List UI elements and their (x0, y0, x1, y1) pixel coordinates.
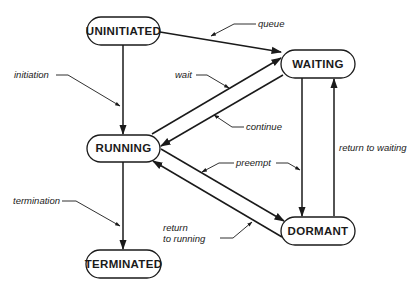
leader-initiation (56, 75, 120, 106)
leader-queue (211, 24, 256, 36)
state-running: RUNNING (87, 135, 160, 162)
label-continue: continue (246, 121, 282, 132)
state-uninitiated-label: UNINITIATED (86, 25, 161, 37)
label-to-running: to running (163, 233, 206, 244)
state-uninitiated: UNINITIATED (86, 17, 161, 45)
leader-termination (62, 201, 120, 226)
state-dormant: DORMANT (281, 217, 355, 245)
leader-continue (214, 115, 244, 127)
state-waiting-label: WAITING (292, 58, 343, 70)
leader-return-to-running (220, 222, 252, 238)
state-waiting: WAITING (281, 50, 355, 78)
state-terminated: TERMINATED (85, 250, 163, 278)
state-diagram: UNINITIATED WAITING RUNNING DORMANT TERM… (0, 0, 419, 291)
state-terminated-label: TERMINATED (85, 258, 163, 270)
state-dormant-label: DORMANT (288, 225, 349, 237)
label-initiation: initiation (14, 69, 49, 80)
state-running-label: RUNNING (96, 142, 152, 154)
label-return: return (163, 222, 188, 233)
label-queue: queue (258, 18, 284, 29)
leader-preempt-waiting (276, 163, 300, 170)
label-wait: wait (175, 69, 192, 80)
label-preempt: preempt (235, 157, 271, 168)
leader-wait (196, 75, 229, 88)
leader-preempt (202, 163, 234, 172)
edge-queue (160, 32, 281, 52)
label-return-to-waiting: return to waiting (339, 142, 407, 153)
edge-continue (161, 75, 283, 146)
label-termination: termination (13, 195, 60, 206)
